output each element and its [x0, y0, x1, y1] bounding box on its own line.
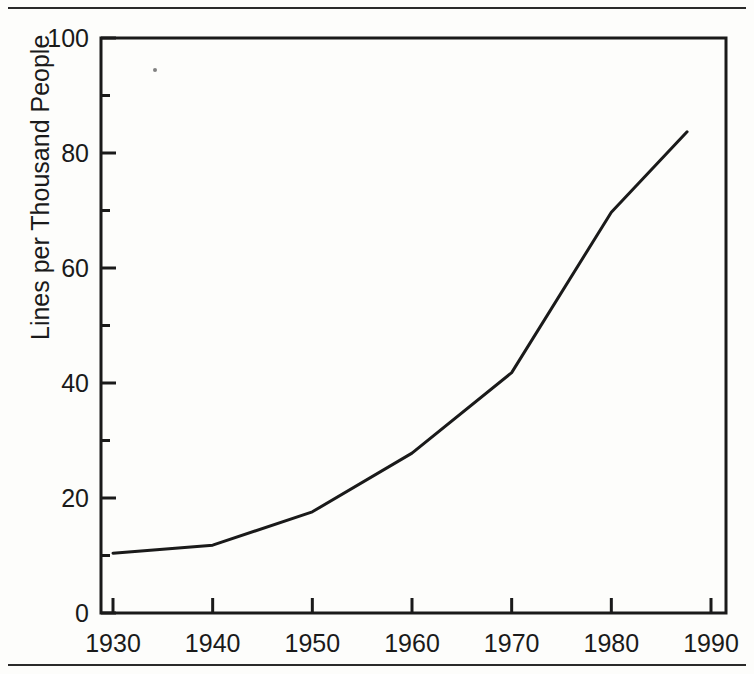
y-axis-tick-label: 0	[75, 599, 89, 628]
figure-container: 020406080100 193019401950196019701980199…	[0, 0, 754, 674]
x-axis-tick-label: 1980	[584, 629, 640, 658]
x-axis-tick-label: 1990	[683, 629, 739, 658]
y-axis-tick-label: 40	[61, 369, 89, 398]
x-axis-tick-label: 1930	[85, 629, 141, 658]
x-axis-tick-label: 1960	[384, 629, 440, 658]
data-series-line	[113, 132, 687, 553]
y-axis-title: Lines per Thousand People	[26, 35, 55, 340]
x-axis-tick-label: 1940	[185, 629, 241, 658]
x-axis-tick-label: 1950	[285, 629, 341, 658]
y-axis-tick-label: 60	[61, 254, 89, 283]
x-axis-tick-label: 1970	[484, 629, 540, 658]
y-axis-tick-label: 20	[61, 484, 89, 513]
line-chart-plot	[0, 0, 754, 674]
y-axis-tick-label: 80	[61, 139, 89, 168]
plot-frame	[101, 38, 726, 613]
